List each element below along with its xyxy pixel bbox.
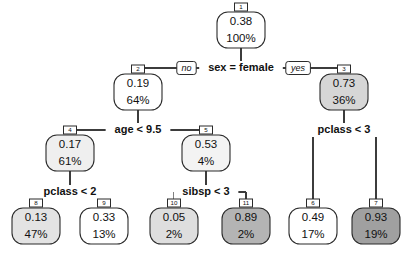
tree-node-1[interactable]: 10.38100%	[217, 3, 265, 48]
split-label-split-2[interactable]: age < 9.5	[106, 123, 171, 137]
split-label-split-1[interactable]: sex = female	[199, 61, 283, 75]
node-value-text: 0.89	[235, 211, 257, 223]
node-percent-text: 19%	[364, 228, 387, 240]
node-number-text: 3	[342, 65, 346, 72]
split-condition-text: pclass < 2	[44, 185, 97, 197]
tree-node-4[interactable]: 40.1761%	[46, 126, 94, 171]
node-percent-text: 2%	[166, 228, 183, 240]
tree-node-10[interactable]: 100.052%	[150, 199, 198, 244]
branch-label-text: no	[181, 63, 191, 73]
tree-node-8[interactable]: 80.1347%	[12, 199, 60, 244]
split-condition-text: sex = female	[208, 61, 274, 73]
node-value-text: 0.53	[195, 138, 217, 150]
node-number-text: 7	[374, 199, 378, 206]
node-percent-text: 47%	[24, 228, 47, 240]
split-label-split-5[interactable]: sibsp < 3	[174, 185, 239, 199]
node-value-text: 0.05	[163, 211, 185, 223]
node-percent-text: 64%	[126, 94, 149, 106]
tree-node-2[interactable]: 20.1964%	[114, 65, 162, 110]
split-condition-text: age < 9.5	[115, 123, 162, 135]
branch-label-yes[interactable]: yes	[286, 62, 311, 75]
node-number-text: 11	[243, 199, 250, 206]
node-number-text: 4	[68, 126, 72, 133]
decision-tree-figure: sex = femalenoyesage < 9.5pclass < 3pcla…	[0, 0, 415, 264]
node-number-text: 10	[171, 199, 178, 206]
split-label-split-4[interactable]: pclass < 2	[35, 185, 106, 199]
node-value-text: 0.13	[25, 211, 47, 223]
decision-tree-canvas: sex = femalenoyesage < 9.5pclass < 3pcla…	[0, 0, 415, 264]
node-percent-text: 61%	[58, 155, 81, 167]
node-value-text: 0.73	[333, 77, 355, 89]
node-percent-text: 13%	[92, 228, 115, 240]
split-condition-text: sibsp < 3	[182, 185, 229, 197]
node-number-text: 9	[102, 199, 106, 206]
node-percent-text: 100%	[226, 32, 255, 44]
node-number-text: 2	[136, 65, 140, 72]
node-value-text: 0.93	[365, 211, 387, 223]
tree-node-3[interactable]: 30.7336%	[320, 65, 368, 110]
split-condition-text: pclass < 3	[318, 123, 371, 135]
node-percent-text: 2%	[238, 228, 255, 240]
node-value-text: 0.17	[59, 138, 81, 150]
node-number-text: 6	[311, 199, 315, 206]
node-percent-text: 17%	[301, 228, 324, 240]
branch-label-text: yes	[290, 63, 306, 73]
tree-node-7[interactable]: 70.9319%	[352, 199, 400, 244]
node-value-text: 0.38	[230, 15, 252, 27]
node-value-text: 0.33	[93, 211, 115, 223]
node-value-text: 0.49	[302, 211, 324, 223]
tree-node-5[interactable]: 50.534%	[182, 126, 230, 171]
node-number-text: 1	[239, 3, 243, 10]
node-percent-text: 36%	[332, 94, 355, 106]
tree-node-11[interactable]: 110.892%	[222, 199, 270, 244]
node-number-text: 5	[204, 126, 208, 133]
tree-node-9[interactable]: 90.3313%	[80, 199, 128, 244]
tree-node-6[interactable]: 60.4917%	[289, 199, 337, 244]
node-number-text: 8	[34, 199, 38, 206]
branch-label-no[interactable]: no	[177, 62, 196, 75]
split-label-split-3[interactable]: pclass < 3	[309, 123, 380, 137]
node-value-text: 0.19	[127, 77, 149, 89]
node-percent-text: 4%	[198, 155, 215, 167]
